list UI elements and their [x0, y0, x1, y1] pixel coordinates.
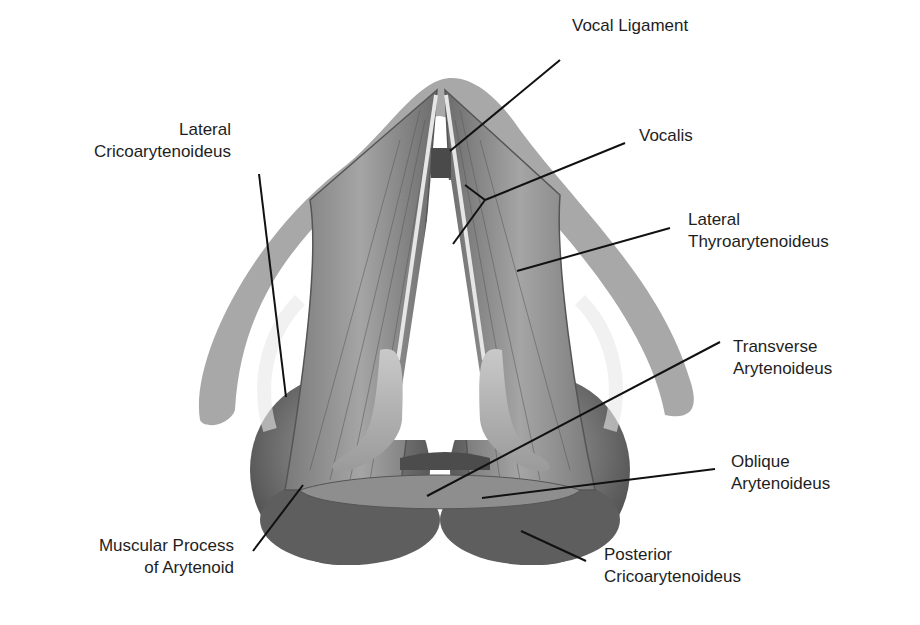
label-muscular-process: Muscular Process of Arytenoid	[99, 535, 234, 579]
label-text-line2: Arytenoideus	[733, 358, 832, 380]
label-vocalis: Vocalis	[639, 125, 693, 147]
label-lateral-thyroarytenoideus: Lateral Thyroarytenoideus	[688, 209, 829, 253]
label-vocal-ligament: Vocal Ligament	[572, 15, 688, 37]
label-text: Vocalis	[639, 125, 693, 147]
label-text-line1: Muscular Process	[99, 535, 234, 557]
label-text-line1: Transverse	[733, 336, 832, 358]
label-text-line2: Thyroarytenoideus	[688, 231, 829, 253]
label-text-line2: of Arytenoid	[99, 557, 234, 579]
larynx-muscle-illustration	[0, 0, 920, 625]
label-text-line2: Arytenoideus	[731, 473, 830, 495]
label-posterior-cricoarytenoideus: Posterior Cricoarytenoideus	[604, 544, 741, 588]
label-text-line1: Posterior	[604, 544, 741, 566]
label-text: Vocal Ligament	[572, 15, 688, 37]
label-text-line2: Cricoarytenoideus	[94, 141, 231, 163]
label-lateral-cricoarytenoideus: Lateral Cricoarytenoideus	[94, 119, 231, 163]
label-text-line1: Lateral	[688, 209, 829, 231]
label-text-line2: Cricoarytenoideus	[604, 566, 741, 588]
label-oblique-arytenoideus: Oblique Arytenoideus	[731, 451, 830, 495]
label-text-line1: Lateral	[94, 119, 231, 141]
label-transverse-arytenoideus: Transverse Arytenoideus	[733, 336, 832, 380]
label-text-line1: Oblique	[731, 451, 830, 473]
